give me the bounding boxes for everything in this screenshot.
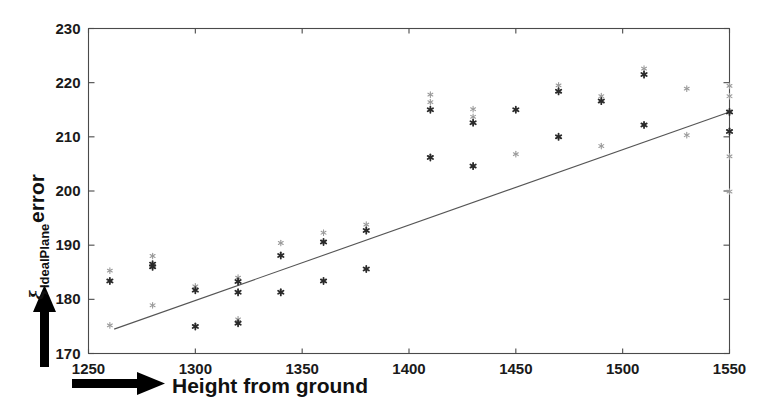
data-point — [727, 154, 732, 160]
data-point — [278, 252, 283, 258]
data-point — [599, 143, 604, 149]
y-tick-label: 190 — [55, 236, 80, 253]
y-tick-label: 170 — [55, 345, 80, 362]
data-point — [364, 266, 369, 272]
data-point — [684, 86, 689, 92]
scatter-markers — [107, 66, 732, 330]
data-point — [107, 268, 112, 274]
data-point — [727, 109, 732, 115]
y-axis-title-symbol: ξ — [24, 290, 49, 300]
data-point — [470, 163, 475, 169]
y-tick-label: 200 — [55, 182, 80, 199]
scatter-plot-figure: 1250130013501400145015001550 23022021020… — [0, 0, 771, 410]
y-axis-title-rest: error — [25, 174, 48, 223]
data-point — [107, 323, 112, 329]
data-point — [193, 323, 198, 329]
data-point — [727, 93, 732, 99]
data-point — [321, 230, 326, 236]
data-point — [428, 154, 433, 160]
data-point — [428, 107, 433, 113]
x-tick-label: 1450 — [499, 360, 532, 377]
data-point — [727, 83, 732, 89]
data-point — [235, 289, 240, 295]
y-axis-tick-labels: 230220210200190180170 — [55, 20, 80, 362]
x-axis-title: Height from ground — [172, 374, 368, 397]
data-point — [684, 132, 689, 138]
y-axis-title-subscript: IdealPlane — [37, 224, 52, 288]
data-point — [107, 278, 112, 284]
x-tick-label: 1250 — [72, 360, 105, 377]
y-tick-label: 210 — [55, 128, 80, 145]
y-tick-label: 180 — [55, 290, 80, 307]
y-tick-label: 230 — [55, 20, 80, 37]
data-point — [364, 227, 369, 233]
data-point — [278, 240, 283, 246]
plot-svg: 1250130013501400145015001550 23022021020… — [0, 0, 771, 410]
data-point — [428, 99, 433, 105]
data-point — [150, 253, 155, 259]
data-point — [556, 88, 561, 94]
data-point — [513, 151, 518, 157]
data-point — [641, 122, 646, 128]
data-point — [150, 302, 155, 308]
linear-fit-line — [114, 112, 729, 329]
y-tick-label: 220 — [55, 74, 80, 91]
data-point — [641, 71, 646, 77]
data-point — [321, 239, 326, 245]
data-point — [513, 107, 518, 113]
data-point — [321, 278, 326, 284]
data-point — [556, 134, 561, 140]
data-point — [599, 98, 604, 104]
x-tick-label: 1400 — [392, 360, 425, 377]
data-point — [471, 106, 476, 112]
y-axis-title: ξ IdealPlane error — [24, 174, 52, 300]
x-tick-label: 1550 — [713, 360, 746, 377]
data-point — [470, 120, 475, 126]
data-point — [428, 92, 433, 98]
data-point — [727, 128, 732, 134]
x-tick-label: 1500 — [606, 360, 639, 377]
data-point — [278, 289, 283, 295]
